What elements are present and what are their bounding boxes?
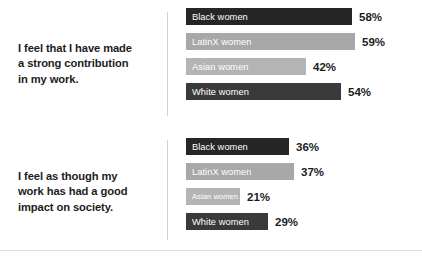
bar-black-women: Black women	[186, 8, 352, 25]
prompt-line: impact on society.	[18, 201, 113, 213]
prompt-line: I feel that I have made	[18, 42, 132, 54]
bar-row: Black women 58%	[186, 8, 422, 25]
bar-label: LatinX women	[192, 167, 252, 177]
prompt-contribution-text: I feel that I have made a strong contrib…	[18, 41, 132, 87]
bar-value: 54%	[348, 86, 371, 98]
chart-group-impact: I feel as though my work has had a good …	[0, 138, 422, 246]
bars-contribution: Black women 58% LatinX women 59% Asian w…	[167, 8, 422, 120]
bar-value: 42%	[313, 61, 336, 73]
bar-row: White women 54%	[186, 83, 422, 100]
bar-value: 58%	[359, 11, 382, 23]
bar-white-women: White women	[186, 213, 268, 230]
bar-value: 37%	[301, 166, 324, 178]
bar-row: LatinX women 37%	[186, 163, 422, 180]
bar-label: Asian women	[192, 192, 238, 201]
bar-value: 29%	[275, 216, 298, 228]
bar-white-women: White women	[186, 83, 341, 100]
bar-value: 36%	[296, 141, 319, 153]
prompt-line: work has had a good	[18, 185, 127, 197]
prompt-line: in my work.	[18, 73, 78, 85]
bar-asian-women: Asian women	[186, 188, 240, 205]
bar-label: Black women	[192, 12, 248, 22]
bar-row: White women 29%	[186, 213, 422, 230]
bars-impact: Black women 36% LatinX women 37% Asian w…	[167, 138, 422, 246]
bar-latinx-women: LatinX women	[186, 33, 355, 50]
prompt-impact: I feel as though my work has had a good …	[0, 138, 167, 246]
prompt-line: I feel as though my	[18, 170, 117, 182]
bar-row: LatinX women 59%	[186, 33, 422, 50]
bar-value: 21%	[247, 191, 270, 203]
chart-container: I feel that I have made a strong contrib…	[0, 0, 422, 257]
chart-group-contribution: I feel that I have made a strong contrib…	[0, 8, 422, 120]
bar-asian-women: Asian women	[186, 58, 306, 75]
bar-black-women: Black women	[186, 138, 289, 155]
prompt-impact-text: I feel as though my work has had a good …	[18, 169, 127, 215]
bar-label: LatinX women	[192, 37, 252, 47]
bar-label: Black women	[192, 142, 248, 152]
prompt-contribution: I feel that I have made a strong contrib…	[0, 8, 167, 120]
prompt-line: a strong contribution	[18, 57, 128, 69]
bar-label: White women	[192, 217, 249, 227]
bar-row: Asian women 42%	[186, 58, 422, 75]
bar-label: White women	[192, 87, 249, 97]
bar-latinx-women: LatinX women	[186, 163, 294, 180]
bar-label: Asian women	[192, 62, 248, 72]
bottom-divider	[0, 250, 422, 251]
bar-value: 59%	[362, 36, 385, 48]
bar-row: Asian women 21%	[186, 188, 422, 205]
bar-row: Black women 36%	[186, 138, 422, 155]
